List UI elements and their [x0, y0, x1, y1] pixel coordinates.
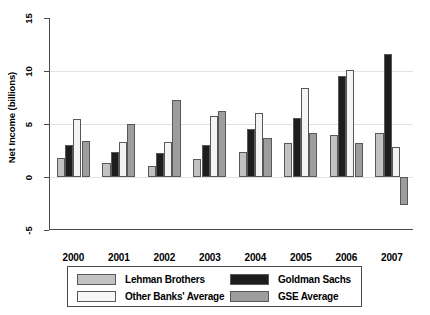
bar-2001-series-3	[127, 124, 135, 177]
bar-2007-series-2	[392, 147, 400, 177]
y-tick-label: 0	[23, 164, 34, 190]
x-tick-label: 2002	[141, 252, 187, 263]
bar-2000-series-2	[73, 119, 81, 177]
bar-2004-series-1	[247, 129, 255, 177]
chart-legend: Lehman Brothers Goldman Sachs Other Bank…	[67, 266, 362, 307]
legend-swatch-icon	[230, 274, 269, 285]
bar-2004-series-3	[263, 138, 271, 177]
bar-2007-series-0	[375, 133, 383, 178]
bar-2003-series-0	[193, 159, 201, 177]
x-axis-line	[49, 229, 413, 230]
bar-2003-series-1	[202, 145, 210, 177]
legend-row: Other Banks' Average GSE Average	[68, 288, 361, 305]
bar-2005-series-1	[293, 118, 301, 177]
bar-2006-series-2	[346, 70, 354, 177]
y-tick-mark	[44, 71, 49, 72]
bar-2002-series-2	[164, 142, 172, 177]
bar-2002-series-1	[156, 153, 164, 177]
bar-2005-series-2	[301, 88, 309, 177]
legend-entry-other-banks-average: Other Banks' Average	[68, 288, 230, 305]
x-tick-label: 2005	[278, 252, 324, 263]
legend-label: Other Banks' Average	[125, 291, 224, 302]
y-tick-label: 5	[23, 111, 34, 137]
bar-2006-series-1	[338, 76, 346, 177]
plot-area: -5051015 2000200120022003200420052006200…	[49, 18, 413, 230]
legend-entry-gse-average: GSE Average	[230, 288, 361, 305]
x-tick-label: 2001	[96, 252, 142, 263]
legend-row: Lehman Brothers Goldman Sachs	[68, 271, 361, 288]
bar-2000-series-3	[82, 141, 90, 177]
x-tick-label: 2007	[369, 252, 415, 263]
gridline	[50, 124, 413, 125]
y-tick-label: -5	[23, 217, 34, 243]
bar-2001-series-1	[111, 152, 119, 177]
bar-2007-series-1	[384, 54, 392, 177]
bar-2000-series-0	[57, 158, 65, 177]
x-tick-label: 2004	[232, 252, 278, 263]
bar-2006-series-3	[355, 143, 363, 177]
bar-chart-figure: Net Income (billions) -5051015 200020012…	[0, 0, 430, 315]
y-tick-label: 15	[23, 5, 34, 31]
legend-entry-lehman-brothers: Lehman Brothers	[68, 271, 230, 288]
bar-2004-series-0	[239, 152, 247, 177]
bar-2001-series-0	[102, 163, 110, 177]
legend-entry-goldman-sachs: Goldman Sachs	[230, 271, 361, 288]
legend-swatch-icon	[77, 291, 116, 302]
legend-label: Lehman Brothers	[125, 274, 205, 285]
bar-2007-series-3	[400, 177, 408, 205]
y-tick-mark	[44, 18, 49, 19]
bar-2002-series-0	[148, 166, 156, 177]
bar-2003-series-2	[210, 116, 218, 178]
y-tick-label: 10	[23, 58, 34, 84]
y-axis-title: Net Income (billions)	[6, 0, 20, 235]
bar-2005-series-0	[284, 143, 292, 177]
y-tick-mark	[44, 124, 49, 125]
x-tick-label: 2003	[187, 252, 233, 263]
bar-2003-series-3	[218, 111, 226, 177]
legend-swatch-icon	[77, 274, 116, 285]
bar-2002-series-3	[172, 100, 180, 177]
legend-swatch-icon	[230, 291, 269, 302]
bar-2006-series-0	[330, 135, 338, 177]
y-tick-mark	[44, 177, 49, 178]
bar-2005-series-3	[309, 133, 317, 178]
bar-2000-series-1	[65, 145, 73, 177]
y-tick-mark	[44, 230, 49, 231]
legend-label: GSE Average	[278, 291, 338, 302]
x-tick-label: 2006	[323, 252, 369, 263]
gridline	[50, 71, 413, 72]
x-tick-label: 2000	[50, 252, 96, 263]
bar-2001-series-2	[119, 142, 127, 177]
gridline	[50, 177, 413, 178]
legend-label: Goldman Sachs	[278, 274, 351, 285]
bar-2004-series-2	[255, 113, 263, 177]
